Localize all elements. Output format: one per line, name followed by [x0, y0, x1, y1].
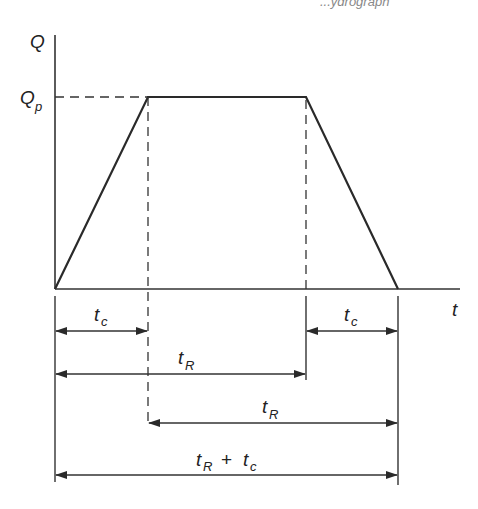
q-axis-label: Q — [30, 31, 45, 52]
svg-text:t: t — [196, 449, 202, 470]
peak-discharge-label: Q p — [20, 87, 42, 114]
hydrograph-diagram: ...ydrograph Q t Q p t c t c t R t R — [0, 0, 478, 509]
header-fragment: ...ydrograph — [320, 0, 389, 9]
hydrograph-curve — [55, 97, 398, 289]
dimension-tc-rise: t c — [56, 304, 147, 331]
svg-text:Q: Q — [20, 87, 35, 108]
svg-text:+: + — [221, 449, 232, 470]
svg-text:R: R — [203, 459, 212, 474]
svg-text:p: p — [34, 99, 42, 114]
dimension-tr-second: t R — [149, 396, 397, 423]
dimension-tc-fall: t c — [307, 304, 397, 331]
svg-text:c: c — [250, 459, 257, 474]
svg-text:t: t — [243, 449, 249, 470]
svg-text:c: c — [101, 314, 108, 329]
svg-text:t: t — [262, 396, 268, 417]
svg-text:t: t — [344, 304, 350, 325]
svg-text:t: t — [178, 347, 184, 368]
svg-text:t: t — [94, 304, 100, 325]
svg-text:c: c — [351, 314, 358, 329]
dimension-tr-plus-tc: t R + t c — [56, 449, 397, 475]
dimension-tr-first: t R — [56, 347, 305, 374]
svg-text:R: R — [185, 358, 194, 373]
t-axis-label: t — [452, 299, 458, 320]
svg-text:R: R — [269, 407, 278, 422]
